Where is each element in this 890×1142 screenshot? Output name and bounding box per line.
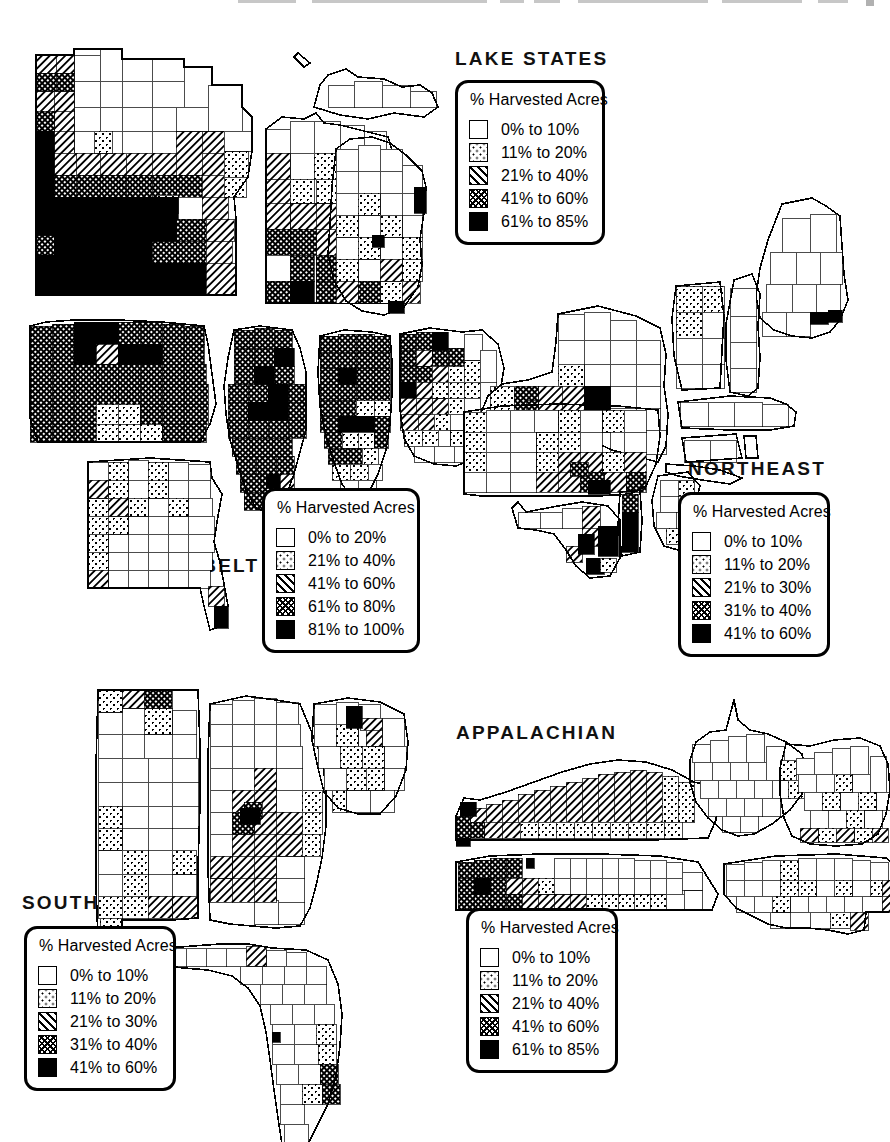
legend-swatch-hatch-icon [469, 166, 488, 185]
legend-label: 31% to 40% [724, 602, 811, 620]
legend-appalachian: % Harvested Acres 0% to 10% 11% to 20% 2… [466, 908, 618, 1073]
legend-row: 0% to 10% [38, 964, 162, 987]
legend-row: 41% to 60% [480, 1015, 604, 1038]
legend-title: % Harvested Acres [481, 919, 604, 937]
state-north-carolina [724, 854, 890, 934]
legend-row: 41% to 60% [692, 622, 816, 645]
state-illinois [224, 326, 306, 514]
legend-label: 0% to 10% [70, 967, 148, 985]
legend-swatch-hatch-icon [276, 574, 295, 593]
legend-label: 21% to 40% [501, 167, 588, 185]
legend-label: 31% to 40% [70, 1036, 157, 1054]
state-tennessee [456, 854, 718, 910]
panel-corn-belt: CORN BELT [0, 300, 450, 660]
legend-label: 11% to 20% [724, 556, 810, 574]
state-delaware [618, 490, 642, 556]
legend-row: 0% to 10% [480, 946, 604, 969]
panel-northeast: NORTHEAST [430, 190, 889, 660]
legend-rows: 0% to 10% 11% to 20% 21% to 30% 31% to 4… [38, 964, 162, 1079]
legend-swatch-cross-icon [276, 597, 295, 616]
legend-swatch-blank-icon [38, 966, 57, 985]
legend-label: 61% to 85% [512, 1041, 599, 1059]
state-minnesota [36, 49, 252, 295]
legend-swatch-dots-icon [38, 989, 57, 1008]
legend-row: 21% to 40% [480, 992, 604, 1015]
legend-label: 11% to 20% [512, 972, 598, 990]
legend-rows: 0% to 10% 11% to 20% 21% to 40% 41% to 6… [480, 946, 604, 1061]
state-vermont [672, 282, 724, 390]
legend-swatch-dots-icon [480, 971, 499, 990]
legend-row: 31% to 40% [38, 1033, 162, 1056]
state-kentucky [456, 760, 718, 846]
legend-swatch-dots-icon [276, 551, 295, 570]
legend-row: 21% to 30% [38, 1010, 162, 1033]
legend-row: 0% to 20% [276, 526, 406, 549]
legend-label: 21% to 40% [308, 552, 395, 570]
legend-row: 61% to 85% [480, 1038, 604, 1061]
legend-row: 41% to 60% [276, 572, 406, 595]
legend-label: 41% to 60% [308, 575, 395, 593]
legend-label: 21% to 30% [70, 1013, 157, 1031]
state-indiana [318, 330, 392, 498]
legend-label: 0% to 10% [501, 121, 579, 139]
legend-row: 0% to 10% [469, 118, 591, 141]
state-alabama [96, 690, 200, 954]
legend-row: 11% to 20% [469, 141, 591, 164]
legend-row: 81% to 100% [276, 618, 406, 641]
state-rhode-island [744, 436, 758, 458]
legend-swatch-dots-icon [692, 555, 711, 574]
state-missouri [88, 458, 228, 630]
region-title-lake-states: LAKE STATES [455, 48, 608, 70]
legend-swatch-solid-icon [692, 624, 711, 643]
legend-northeast: % Harvested Acres 0% to 10% 11% to 20% 2… [678, 492, 830, 657]
state-new-hampshire [726, 274, 760, 396]
legend-label: 41% to 60% [512, 1018, 599, 1036]
legend-swatch-dots-icon [469, 143, 488, 162]
panel-appalachian: APPALACHIAN [440, 680, 889, 1142]
legend-label: 21% to 40% [512, 995, 599, 1013]
state-michigan [294, 53, 438, 315]
legend-row: 61% to 80% [276, 595, 406, 618]
legend-label: 41% to 60% [724, 625, 811, 643]
legend-label: 11% to 20% [70, 990, 156, 1008]
legend-swatch-blank-icon [276, 528, 295, 547]
legend-label: 0% to 10% [724, 533, 802, 551]
state-pennsylvania [464, 404, 660, 496]
state-maine [756, 198, 848, 338]
legend-row: 0% to 10% [692, 530, 816, 553]
legend-swatch-solid-icon [276, 620, 295, 639]
legend-title: % Harvested Acres [470, 91, 591, 109]
state-maryland [512, 502, 620, 578]
legend-swatch-hatch-icon [38, 1012, 57, 1031]
legend-rows: 0% to 20% 21% to 40% 41% to 60% 61% to 8… [276, 526, 406, 641]
legend-row: 21% to 40% [469, 164, 591, 187]
legend-swatch-cross-icon [692, 601, 711, 620]
legend-swatch-blank-icon [469, 120, 488, 139]
state-connecticut [682, 434, 742, 462]
legend-row: 11% to 20% [692, 553, 816, 576]
legend-rows: 0% to 10% 11% to 20% 21% to 30% 31% to 4… [692, 530, 816, 645]
map-lake-states[interactable] [28, 45, 448, 295]
legend-row: 21% to 40% [276, 549, 406, 572]
legend-row: 41% to 60% [38, 1056, 162, 1079]
legend-label: 0% to 10% [512, 949, 590, 967]
legend-title: % Harvested Acres [39, 937, 162, 955]
legend-row: 21% to 30% [692, 576, 816, 599]
state-massachusetts [678, 396, 796, 430]
legend-title: % Harvested Acres [277, 499, 406, 517]
state-georgia [208, 696, 326, 928]
legend-label: 41% to 60% [70, 1059, 157, 1077]
legend-swatch-hatch-icon [692, 578, 711, 597]
state-west-virginia [690, 700, 806, 836]
legend-title: % Harvested Acres [693, 503, 816, 521]
panel-southeast: SOUTHEAST [0, 680, 450, 1142]
legend-row: 11% to 20% [480, 969, 604, 992]
map-appalachian[interactable] [450, 690, 890, 930]
legend-swatch-blank-icon [480, 948, 499, 967]
legend-swatch-solid-icon [38, 1058, 57, 1077]
state-florida [166, 944, 342, 1142]
legend-swatch-cross-icon [480, 1017, 499, 1036]
legend-label: 0% to 20% [308, 529, 386, 547]
legend-label: 81% to 100% [308, 621, 404, 639]
legend-label: 61% to 80% [308, 598, 395, 616]
